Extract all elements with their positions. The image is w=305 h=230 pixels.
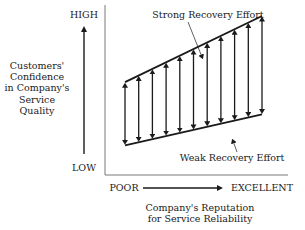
strong-label-leader xyxy=(188,22,202,57)
double-arrow-group xyxy=(125,19,262,142)
y-axis-title-line: Service xyxy=(2,94,72,105)
x-axis-title-line: for Service Reliability xyxy=(140,213,260,224)
x-axis-title: Company's Reputation for Service Reliabi… xyxy=(140,202,260,224)
high-label: HIGH xyxy=(70,9,98,20)
y-axis-title-line: Confidence xyxy=(2,71,72,82)
poor-label: POOR xyxy=(109,182,139,193)
weak-label-leader xyxy=(233,141,237,152)
strong-recovery-label: Strong Recovery Effort xyxy=(152,9,263,20)
y-axis-title-line: Quality xyxy=(2,105,72,116)
y-axis-title-line: Customers' xyxy=(2,60,72,71)
y-axis-title-line: in Company's xyxy=(2,82,72,93)
y-axis-title: Customers' Confidence in Company's Servi… xyxy=(2,60,72,116)
weak-recovery-label: Weak Recovery Effort xyxy=(180,152,285,163)
x-axis-title-line: Company's Reputation xyxy=(140,202,260,213)
excellent-label: EXCELLENT xyxy=(231,182,294,193)
low-label: LOW xyxy=(72,162,96,173)
